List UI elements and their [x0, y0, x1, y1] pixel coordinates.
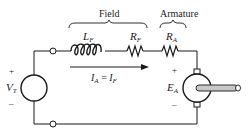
terminal-top	[50, 48, 56, 54]
current-label: IA = IF	[90, 72, 118, 85]
armature-resistor-icon	[162, 46, 178, 56]
inductor-label: LF	[82, 30, 94, 44]
source-minus: –	[8, 98, 14, 108]
field-brace	[69, 20, 147, 28]
source-plus: +	[9, 66, 14, 76]
inductor-icon	[71, 44, 101, 55]
armature-brace	[160, 20, 186, 28]
armature-resistor-label: RA	[165, 30, 178, 44]
emf-label: EA	[166, 81, 179, 95]
field-label: Field	[99, 8, 120, 19]
wire-ra-to-motor	[178, 51, 197, 71]
motor-shaft-end	[236, 85, 241, 91]
emf-plus: +	[172, 65, 177, 75]
armature-label: Armature	[160, 8, 199, 19]
voltage-source-icon	[21, 75, 47, 101]
motor-brush-top	[194, 69, 200, 74]
motor-shaft-icon	[196, 85, 238, 91]
current-arrow-head-icon	[141, 64, 149, 70]
circuit-diagram: Field Armature LF RF RA IA = IF + VT – +…	[0, 0, 249, 131]
motor-brush-bottom	[194, 102, 200, 107]
field-resistor-icon	[127, 46, 143, 56]
emf-minus: –	[171, 99, 177, 109]
wire-bottom-left	[34, 101, 50, 124]
field-resistor-label: RF	[129, 30, 142, 44]
source-label: VT	[6, 81, 18, 95]
terminal-bottom	[50, 121, 56, 127]
wire-top-left	[34, 51, 50, 75]
